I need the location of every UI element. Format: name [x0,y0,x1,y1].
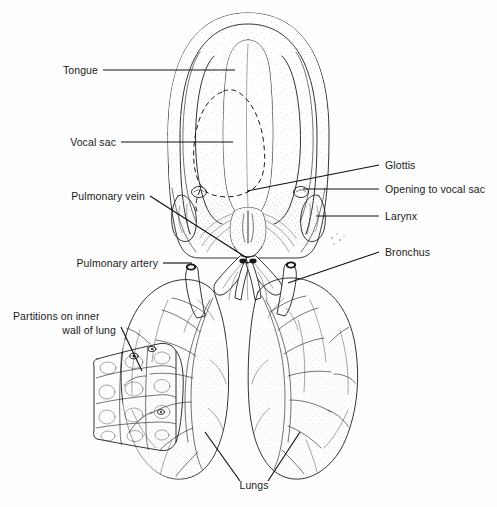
label-partitions-line2: wall of lung [61,324,116,336]
label-pulmonary-vein: Pulmonary vein [71,190,145,202]
frog-respiratory-diagram: Tongue Vocal sac Pulmonary vein Pulmonar… [0,0,497,507]
diagram-canvas: Tongue Vocal sac Pulmonary vein Pulmonar… [0,0,497,507]
right-lung [248,278,360,485]
label-tongue: Tongue [63,64,98,76]
label-vocal-sac: Vocal sac [70,136,116,148]
bronchi [214,256,282,295]
label-bronchus: Bronchus [385,246,430,258]
label-larynx: Larynx [385,210,418,222]
label-opening-to-vocal-sac: Opening to vocal sac [385,183,485,195]
label-glottis: Glottis [385,159,415,171]
leader-bronchus [288,252,379,283]
left-lung [121,280,230,480]
pulmonary-vessels [184,259,298,332]
label-pulmonary-artery: Pulmonary artery [76,257,158,269]
label-partitions-line1: Partitions on inner [13,310,100,322]
label-lungs: Lungs [239,479,268,491]
